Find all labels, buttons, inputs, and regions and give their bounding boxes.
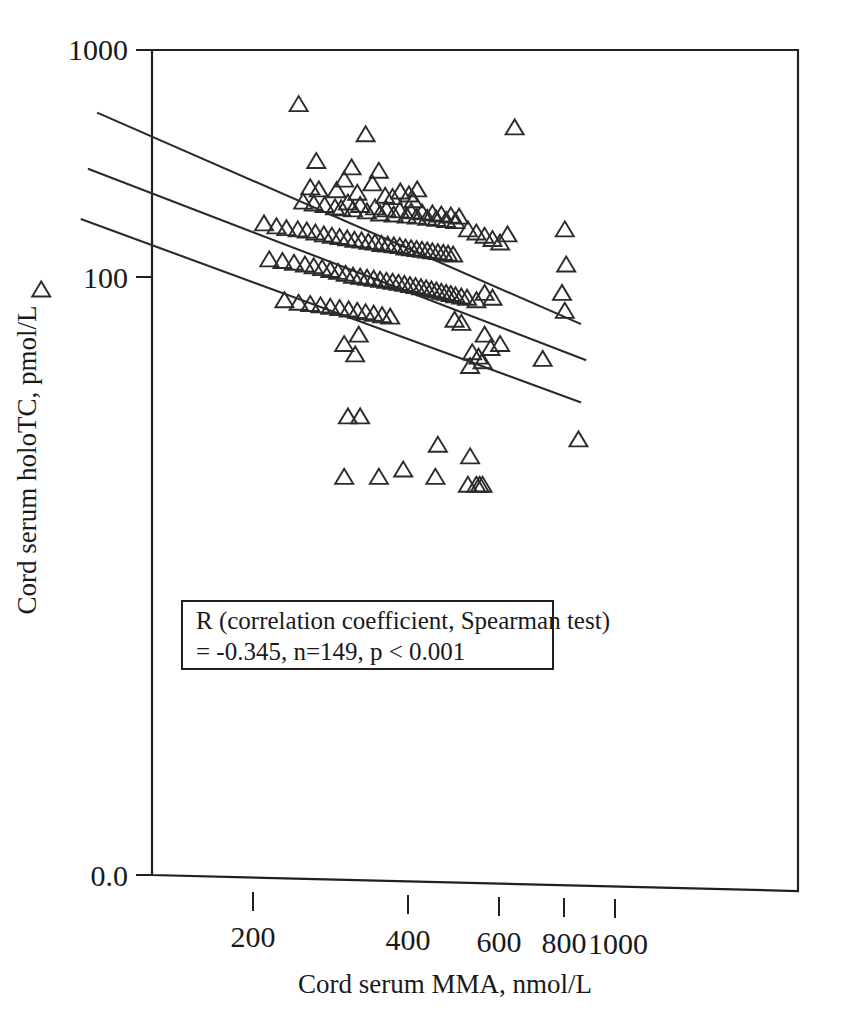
y-tick-label-100: 100 xyxy=(83,261,128,294)
data-point-marker xyxy=(339,408,357,423)
data-point-marker xyxy=(32,281,50,296)
data-point-marker xyxy=(556,221,574,236)
data-point-marker xyxy=(534,351,552,366)
x-tick-label-1000: 1000 xyxy=(588,927,648,960)
data-point-marker xyxy=(429,437,447,452)
data-point-marker xyxy=(350,327,368,342)
regression-lines-layer xyxy=(81,113,586,403)
scatter-plot-figure: 1000 100 0.0 200 400 600 800 1000 Cord s… xyxy=(0,0,849,1029)
data-point-marker xyxy=(394,462,412,477)
x-tick-label-600: 600 xyxy=(477,925,522,958)
data-point-marker xyxy=(463,344,481,359)
y-tick-label-1000: 1000 xyxy=(68,33,128,66)
data-point-marker xyxy=(426,469,444,484)
x-tick-label-800: 800 xyxy=(542,926,587,959)
data-point-marker xyxy=(307,153,325,168)
y-axis-ticks xyxy=(136,50,152,875)
data-point-marker xyxy=(335,336,353,351)
x-axis-ticks xyxy=(253,892,615,918)
x-axis-title: Cord serum MMA, nmol/L xyxy=(298,969,592,999)
y-axis-title: Cord serum holoTC, pmol/L xyxy=(12,306,42,615)
x-tick-label-200: 200 xyxy=(231,920,276,953)
data-point-marker xyxy=(346,346,364,361)
data-point-marker xyxy=(335,469,353,484)
plot-frame xyxy=(152,50,798,891)
data-point-marker xyxy=(506,119,524,134)
data-point-marker xyxy=(357,126,375,141)
x-tick-label-400: 400 xyxy=(386,923,431,956)
data-point-marker xyxy=(553,285,571,300)
data-point-marker xyxy=(370,469,388,484)
data-point-marker xyxy=(290,96,308,111)
upper-confidence-band xyxy=(97,113,581,325)
lower-confidence-band xyxy=(81,219,581,402)
data-point-marker xyxy=(498,226,516,241)
data-point-marker xyxy=(461,448,479,463)
data-point-marker xyxy=(557,257,575,272)
statistics-annotation: R (correlation coefficient, Spearman tes… xyxy=(182,601,610,669)
data-point-marker xyxy=(556,303,574,318)
data-point-marker xyxy=(569,431,587,446)
figure-page: 1000 100 0.0 200 400 600 800 1000 Cord s… xyxy=(0,0,849,1029)
annotation-line-1: R (correlation coefficient, Spearman tes… xyxy=(196,607,610,635)
annotation-line-2: = -0.345, n=149, p < 0.001 xyxy=(196,638,465,665)
data-point-marker xyxy=(491,336,509,351)
axis-box xyxy=(152,50,798,891)
data-point-marker xyxy=(351,408,369,423)
y-tick-label-origin: 0.0 xyxy=(91,859,129,892)
